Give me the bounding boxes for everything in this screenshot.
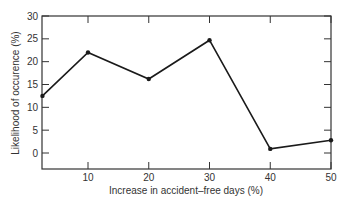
line-chart: 051015202530 1020304050 Increase in acci… — [0, 0, 348, 199]
y-tick-label: 5 — [32, 125, 38, 136]
y-axis-label: Likelihood of occurence (%) — [10, 31, 21, 154]
data-point — [268, 147, 272, 151]
x-tick-label: 30 — [204, 172, 216, 183]
data-point — [329, 138, 333, 142]
data-series — [40, 38, 333, 151]
series-line — [42, 40, 331, 149]
x-tick-label: 20 — [143, 172, 155, 183]
x-tick-label: 10 — [82, 172, 94, 183]
data-point — [207, 38, 211, 42]
x-tick-label: 40 — [265, 172, 277, 183]
y-tick-label: 30 — [27, 11, 39, 22]
y-axis-ticks: 051015202530 — [27, 11, 331, 159]
y-tick-label: 25 — [27, 33, 39, 44]
x-axis-label: Increase in accident–free days (%) — [109, 185, 263, 196]
y-tick-label: 15 — [27, 79, 39, 90]
data-point — [40, 94, 44, 98]
data-point — [86, 50, 90, 54]
data-point — [147, 77, 151, 81]
y-tick-label: 20 — [27, 56, 39, 67]
y-tick-label: 0 — [32, 148, 38, 159]
x-tick-label: 50 — [325, 172, 337, 183]
y-tick-label: 10 — [27, 102, 39, 113]
